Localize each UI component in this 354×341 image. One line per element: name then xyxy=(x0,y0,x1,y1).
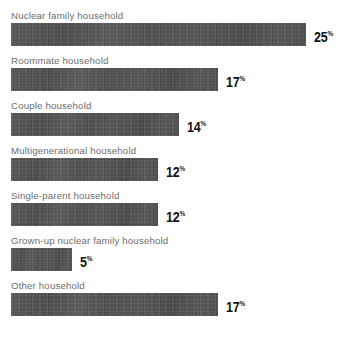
bar-row: Other household 17% xyxy=(0,280,354,325)
bar-fill xyxy=(11,203,158,226)
bar-value-number: 17 xyxy=(226,74,240,90)
bar-line: 14% xyxy=(11,113,354,136)
bar-value-number: 12 xyxy=(166,209,180,225)
bar-value-label: 12% xyxy=(166,162,185,179)
bar-value-label: 17% xyxy=(226,72,245,89)
percent-sign: % xyxy=(240,299,246,308)
bar-row: Grown-up nuclear family household 5% xyxy=(0,235,354,280)
bar-line: 12% xyxy=(11,203,354,226)
bar-value-label: 25% xyxy=(314,27,333,44)
horizontal-bar-chart: Nuclear family household 25% Roommate ho… xyxy=(0,0,354,341)
bar-line: 12% xyxy=(11,158,354,181)
bar-category-label: Single-parent household xyxy=(11,190,354,202)
percent-sign: % xyxy=(201,119,207,128)
bar-value-label: 14% xyxy=(187,117,206,134)
bar-fill xyxy=(11,68,218,91)
bar-value-label: 12% xyxy=(166,207,185,224)
bar-line: 17% xyxy=(11,68,354,91)
bar-value-number: 12 xyxy=(166,164,180,180)
bar-row: Nuclear family household 25% xyxy=(0,10,354,55)
bar-value-number: 25 xyxy=(314,29,328,45)
bar-fill xyxy=(11,248,72,271)
bar-category-label: Grown-up nuclear family household xyxy=(11,235,354,247)
bar-fill xyxy=(11,293,218,316)
bar-value-number: 17 xyxy=(226,299,240,315)
bar-line: 5% xyxy=(11,248,354,271)
percent-sign: % xyxy=(328,29,334,38)
bar-row: Multigenerational household 12% xyxy=(0,145,354,190)
bar-category-label: Couple household xyxy=(11,100,354,112)
bar-category-label: Roommate household xyxy=(11,55,354,67)
bar-fill xyxy=(11,113,179,136)
bar-value-number: 14 xyxy=(187,119,201,135)
percent-sign: % xyxy=(240,74,246,83)
bar-line: 17% xyxy=(11,293,354,316)
bar-value-label: 17% xyxy=(226,297,245,314)
bar-row: Couple household 14% xyxy=(0,100,354,145)
bar-category-label: Other household xyxy=(11,280,354,292)
bar-row: Roommate household 17% xyxy=(0,55,354,100)
bar-value-number: 5 xyxy=(80,254,87,270)
bar-category-label: Multigenerational household xyxy=(11,145,354,157)
percent-sign: % xyxy=(180,209,186,218)
bar-value-label: 5% xyxy=(80,252,93,269)
bar-line: 25% xyxy=(11,23,354,46)
percent-sign: % xyxy=(180,164,186,173)
bar-fill xyxy=(11,23,306,46)
percent-sign: % xyxy=(87,254,93,263)
bar-category-label: Nuclear family household xyxy=(11,10,354,22)
bar-fill xyxy=(11,158,158,181)
bar-row: Single-parent household 12% xyxy=(0,190,354,235)
